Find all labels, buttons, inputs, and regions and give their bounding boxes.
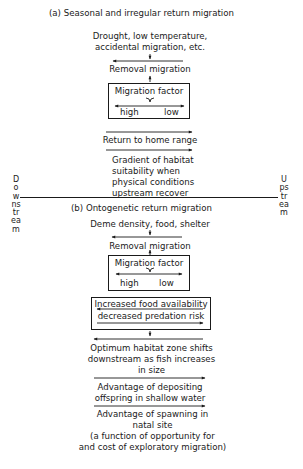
section-b-removal-label: Removal migration <box>90 241 210 252</box>
gradient-line-3: physical conditions <box>112 177 194 188</box>
section-a-cause-line1: Drought, low temperature, <box>80 31 220 42</box>
section-a-migration-factor-box: Migration factor high low <box>108 83 190 119</box>
optimum-line-3: in size <box>70 365 233 376</box>
depositing-line-1: Advantage of depositing <box>75 382 225 393</box>
food-availability-label: Increased food availability <box>92 299 210 310</box>
food-predation-box: Increased food availability decreased pr… <box>91 297 211 330</box>
spawning-line-4: and cost of exploratory migration) <box>70 442 235 453</box>
migration-factor-high: high <box>120 107 139 118</box>
gradient-line-4: upstream recover <box>112 188 188 199</box>
migration-factor-low: low <box>164 107 179 118</box>
optimum-line-1: Optimum habitat zone shifts <box>70 343 233 354</box>
spawning-line-3: (a function of opportunity for <box>70 431 235 442</box>
section-a-cause-line2: accidental migration, etc. <box>80 42 220 53</box>
spawning-line-1: Advantage of spawning in <box>70 409 235 420</box>
section-a-title: (a) Seasonal and irregular return migrat… <box>49 8 234 19</box>
gradient-line-2: suitability when <box>112 166 180 177</box>
migration-factor-title: Migration factor <box>109 86 189 97</box>
migration-factor-title: Migration factor <box>109 258 189 269</box>
depositing-line-2: offspring in shallow water <box>75 393 225 404</box>
predation-risk-label: decreased predation risk <box>92 311 210 322</box>
gradient-line-1: Gradient of habitat <box>112 155 194 166</box>
migration-factor-high: high <box>120 278 139 289</box>
section-b-migration-factor-box: Migration factor high low <box>108 255 190 291</box>
section-a-removal-label: Removal migration <box>90 64 210 75</box>
section-b-cause: Deme density, food, shelter <box>80 219 220 230</box>
upstream-label: Upstream <box>279 176 289 217</box>
section-b-title: (b) Ontogenetic return migration <box>71 203 212 214</box>
optimum-line-2: downstream as fish increases <box>70 354 233 365</box>
migration-factor-low: low <box>159 278 174 289</box>
section-a-return-label: Return to home range <box>95 135 205 146</box>
spawning-line-2: natal site <box>70 420 235 431</box>
downstream-label: Downstream <box>11 176 21 234</box>
